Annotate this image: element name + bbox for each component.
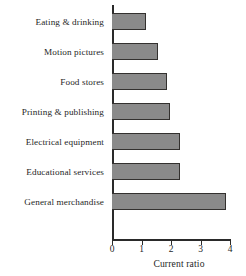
plot-area <box>112 0 246 240</box>
bar-chart: Eating & drinking Motion pictures Food s… <box>0 0 246 276</box>
bar-educational-services <box>112 163 180 180</box>
category-label-eating-drinking: Eating & drinking <box>0 17 104 27</box>
category-label-motion-pictures: Motion pictures <box>0 47 104 57</box>
category-label-food-stores: Food stores <box>0 77 104 87</box>
bar-motion-pictures <box>112 43 158 60</box>
bar-electrical-equipment <box>112 133 180 150</box>
x-tick-label-0: 0 <box>102 244 122 255</box>
category-label-electrical-equipment: Electrical equipment <box>0 137 104 147</box>
x-tick-label-1: 1 <box>132 244 152 255</box>
x-tick-label-3: 3 <box>191 244 211 255</box>
bar-food-stores <box>112 73 167 90</box>
category-label-general-merchandise: General merchandise <box>0 197 104 207</box>
x-tick-label-4: 4 <box>220 244 240 255</box>
bar-printing-publishing <box>112 103 170 120</box>
x-axis-title: Current ratio <box>112 258 246 269</box>
bar-general-merchandise <box>112 193 226 210</box>
bar-eating-drinking <box>112 13 146 30</box>
category-label-printing-publishing: Printing & publishing <box>0 107 104 117</box>
category-label-educational-services: Educational services <box>0 167 104 177</box>
x-tick-label-2: 2 <box>161 244 181 255</box>
category-axis-labels: Eating & drinking Motion pictures Food s… <box>0 0 108 240</box>
